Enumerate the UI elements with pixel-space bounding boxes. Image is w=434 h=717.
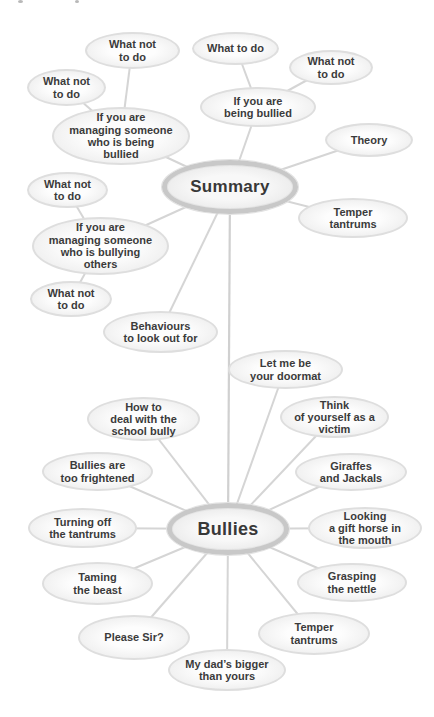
bullies-node-temper-tantrums: Temper tantrums <box>258 612 370 655</box>
bullies-node-too-frightened: Bullies are too frightened <box>42 452 153 491</box>
bullies-node-grasping-nettle: Grasping the nettle <box>297 563 407 602</box>
hub-bullies: Bullies <box>167 503 289 555</box>
summary-node-managing-bullying-others: If you are managing someone who is bully… <box>32 217 169 275</box>
summary-node-behaviours: Behaviours to look out for <box>103 311 218 353</box>
summary-node-temper-tantrums: Temper tantrums <box>298 198 408 238</box>
connector-trunk <box>228 187 230 529</box>
summary-node-what-to-do: What to do <box>192 32 279 65</box>
mind-map-diagram: What not to do What to do What not to do… <box>0 0 434 717</box>
bullies-node-please-sir: Please Sir? <box>78 615 190 660</box>
bullies-node-turning-off-tantrums: Turning off the tantrums <box>28 508 137 548</box>
bullies-node-doormat: Let me be your doormat <box>228 350 343 389</box>
summary-node-what-not-to-do-low: What not to do <box>30 281 112 317</box>
bullies-node-my-dads-bigger: My dad’s bigger than yours <box>168 649 286 691</box>
summary-node-theory: Theory <box>325 123 413 157</box>
summary-node-what-not-to-do-right: What not to do <box>289 50 373 85</box>
bullies-node-taming-beast: Taming the beast <box>42 562 153 605</box>
bullies-node-think-victim: Think of yourself as a victim <box>280 396 389 438</box>
summary-node-being-bullied: If you are being bullied <box>200 87 316 127</box>
summary-node-what-not-to-do-left: What not to do <box>27 69 106 106</box>
bullies-node-giraffes-jackals: Giraffes and Jackals <box>295 453 407 491</box>
summary-node-what-not-to-do-mid: What not to do <box>27 172 108 208</box>
summary-node-what-not-to-do-top: What not to do <box>85 32 180 69</box>
bullies-node-gift-horse: Looking a gift horse in the mouth <box>308 507 422 549</box>
bullies-node-school-bully: How to deal with the school bully <box>87 397 200 441</box>
summary-node-managing-being-bullied: If you are managing someone who is being… <box>52 107 190 165</box>
hub-summary: Summary <box>162 160 298 214</box>
